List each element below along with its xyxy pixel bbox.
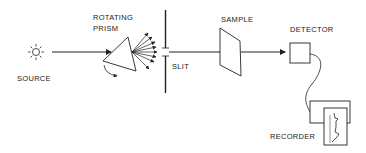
prism-label-line2: PRISM — [93, 24, 118, 33]
source-label: SOURCE — [17, 74, 51, 83]
detector-label: DETECTOR — [290, 25, 334, 34]
dispersed-rays — [132, 33, 157, 69]
detector-box — [290, 43, 310, 63]
triangle-prism-icon — [103, 37, 136, 71]
chart-recorder — [310, 101, 350, 145]
recorder-label: RECORDER — [270, 132, 315, 141]
sample-label: SAMPLE — [221, 15, 253, 24]
slit-label: SLIT — [172, 62, 189, 71]
slit-barrier — [162, 10, 169, 93]
rotation-arrow-icon — [104, 65, 117, 76]
sun-icon — [28, 44, 44, 60]
sample-cell — [220, 28, 241, 76]
spectrophotometer-diagram: SOURCE ROTATING PRISM SLIT SAMPLE DETECT… — [0, 0, 366, 153]
diagram-graphics — [0, 0, 366, 153]
prism-label-line1: ROTATING — [93, 13, 133, 22]
